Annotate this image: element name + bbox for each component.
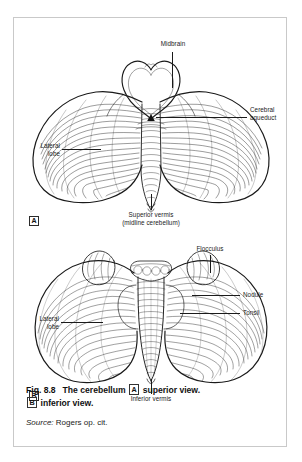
label-nodule: Nodule (243, 291, 263, 299)
label-cerebral-aqueduct-line2: aqueduct (250, 114, 276, 122)
leader-midbrain (172, 52, 173, 88)
label-superior-vermis-line2: (midline cerebellum) (107, 219, 195, 227)
label-lateral-lobe-b-line2: lobe (14, 323, 59, 331)
leader-tonsil (180, 313, 240, 314)
panel-a-marker: A (29, 216, 39, 226)
figure-page: Midbrain Cerebral aqueduct Lateral lobe … (0, 0, 302, 462)
leader-cerebral-aqueduct (156, 117, 247, 118)
panel-a-superior-view: Midbrain Cerebral aqueduct Lateral lobe … (14, 18, 288, 233)
label-cerebral-aqueduct-line1: Cerebral (250, 106, 275, 114)
source-text: Rogers op. cit. (56, 418, 108, 427)
caption-figure-number: Fig. 8.8 (26, 385, 56, 395)
label-midbrain: Midbrain (147, 40, 199, 48)
leader-lateral-lobe-b (61, 322, 103, 323)
figure-border-box: Midbrain Cerebral aqueduct Lateral lobe … (13, 17, 287, 447)
leader-nodule (192, 295, 240, 296)
caption-line-1: Fig. 8.8The cerebellum A superior view. (26, 384, 276, 397)
caption-view-b: inferior view. (41, 398, 94, 408)
leader-lateral-lobe-a (62, 149, 101, 150)
label-lateral-lobe-a-line2: lobe (14, 150, 60, 158)
label-superior-vermis-line1: Superior vermis (107, 211, 195, 219)
caption-line-2: B inferior view. (26, 397, 276, 410)
source-prefix: Source: (26, 418, 54, 427)
label-lateral-lobe-a-line1: Lateral (14, 142, 60, 150)
label-lateral-lobe-b-line1: Lateral (14, 315, 59, 323)
caption-view-a: superior view. (143, 385, 200, 395)
caption-title: The cerebellum (63, 385, 126, 395)
leader-flocculus (210, 255, 211, 273)
label-tonsil: Tonsil (243, 309, 259, 317)
caption-marker-a: A (129, 384, 139, 395)
label-flocculus: Flocculus (184, 245, 236, 253)
leader-superior-vermis (151, 194, 152, 210)
figure-source: Source: Rogers op. cit. (26, 418, 107, 427)
caption-marker-b: B (27, 397, 37, 408)
figure-caption: Fig. 8.8The cerebellum A superior view. … (26, 384, 276, 409)
